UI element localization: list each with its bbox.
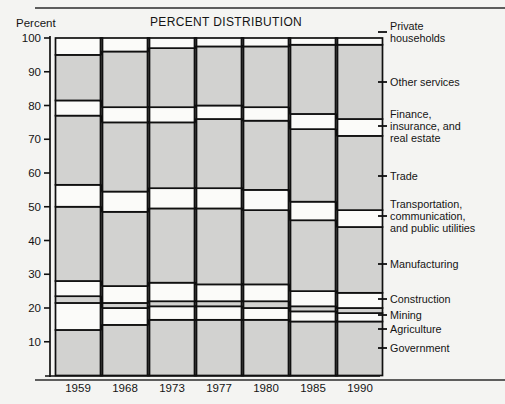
stack-band-segment [338,227,383,293]
stack-band-segment [103,107,148,122]
stack-band-segment [291,202,336,221]
legend-item-label: Finance, [390,108,431,120]
y-tick-label: 70 [28,133,41,145]
y-axis-title: Percent [16,17,56,29]
x-tick-label: 1985 [300,382,326,394]
percent-distribution-chart: PERCENT DISTRIBUTION Percent 10203040506… [0,0,505,404]
stack-band-segment [338,210,383,227]
stack-band-segment [338,313,383,321]
stack-band-segment [56,207,101,281]
stack-band-segment [244,107,289,121]
legend-item-label: Manufacturing [390,258,458,270]
y-tick-label: 40 [28,235,41,247]
y-tick-label: 100 [22,32,41,44]
stack-band-segment [56,281,101,296]
stack-band-segment [56,55,101,101]
stack-band-segment [150,188,195,208]
stack-band-segment [291,114,336,129]
x-tick-label: 1980 [253,382,279,394]
y-tick-label: 30 [28,268,41,280]
legend-item-label: Agriculture [390,323,442,335]
page-title: PERCENT DISTRIBUTION [150,15,302,29]
stack-band-segment [244,210,289,284]
stack-band-segment [103,122,148,191]
y-tick-label: 10 [28,336,41,348]
y-tick-label: 60 [28,167,41,179]
stack-band-segment [150,283,195,302]
stacked-bands [56,38,383,376]
stack-band-segment [244,320,289,376]
stack-band-segment [150,38,195,48]
legend-item-label: households [390,32,446,44]
stack-band-segment [103,52,148,108]
stack-band-segment [197,38,242,46]
stack-band-segment [291,129,336,202]
legend-item-label: Other services [390,76,460,88]
legend-item-label: Mining [390,309,422,321]
stack-band-segment [150,48,195,107]
stack-band-segment [197,320,242,376]
stack-band-segment [197,106,242,120]
stack-band-segment [244,46,289,107]
stack-band-segment [56,100,101,115]
stack-band-segment [56,330,101,376]
y-tick-label: 90 [28,66,41,78]
stack-band-segment [338,45,383,119]
stack-band-segment [197,284,242,301]
stack-band-segment [103,308,148,325]
stack-band-segment [291,291,336,306]
stack-band-segment [56,38,101,55]
y-tick-label: 50 [28,201,41,213]
legend-item-label: and public utilities [390,222,476,234]
stack-band-segment [338,119,383,136]
stack-band-segment [244,301,289,308]
stack-band-segment [103,325,148,376]
stack-band-segment [56,116,101,185]
y-tick-label: 20 [28,302,41,314]
stack-band-segment [103,192,148,212]
legend-item-label: Transportation, [390,198,462,210]
legend-item-label: real estate [390,132,440,144]
legend-item-label: Trade [390,170,418,182]
stack-band-segment [291,45,336,114]
stack-band-segment [150,122,195,188]
legend-item-label: communication, [390,210,466,222]
x-tick-label: 1959 [65,382,91,394]
stack-band-segment [103,212,148,286]
stack-band-segment [150,107,195,122]
stack-band-segment [56,185,101,207]
stack-band-segment [197,306,242,320]
legend-item-label: Government [390,342,449,354]
stack-band-segment [291,220,336,291]
stack-band-segment [150,208,195,282]
stack-band-segment [338,136,383,210]
x-tick-label: 1973 [159,382,185,394]
y-tick-label: 80 [28,100,41,112]
chart-page: PERCENT DISTRIBUTION Percent 10203040506… [0,0,505,404]
stack-band-segment [150,306,195,320]
stack-band-segment [244,121,289,190]
x-tick-label: 1977 [206,382,232,394]
stack-band-segment [291,38,336,45]
x-tick-label: 1990 [347,382,373,394]
stack-band-segment [338,293,383,308]
stack-band-segment [103,286,148,303]
stack-band-segment [244,38,289,46]
stack-band-segment [197,46,242,105]
stack-band-segment [197,188,242,208]
x-tick-label: 1968 [112,382,138,394]
stack-band-segment [103,38,148,52]
legend-item-label: Private [390,20,424,32]
stack-band-segment [291,311,336,321]
stack-band-segment [338,322,383,376]
stack-band-segment [244,284,289,301]
stack-band-segment [197,119,242,188]
stack-band-segment [244,190,289,210]
legend-item-label: insurance, and [390,120,461,132]
stack-band-segment [244,308,289,320]
stack-band-segment [197,208,242,284]
legend-item-label: Construction [390,293,451,305]
stack-band-segment [338,38,383,45]
stack-band-segment [150,320,195,376]
stack-band-segment [291,322,336,376]
